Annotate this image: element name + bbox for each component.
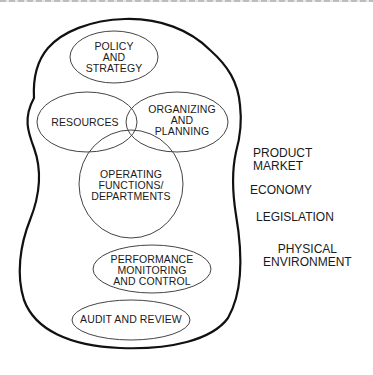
audit-label: AUDIT AND REVIEW <box>76 314 186 325</box>
external-legislation: LEGISLATION <box>256 211 334 224</box>
policy-label: POLICY AND STRATEGY <box>74 41 154 74</box>
diagram-canvas <box>0 0 373 375</box>
external-physical-environment: PHYSICAL ENVIRONMENT <box>263 243 352 268</box>
external-economy: ECONOMY <box>250 184 312 197</box>
operating-label: OPERATING FUNCTIONS/ DEPARTMENTS <box>81 169 181 202</box>
external-product-market: PRODUCT MARKET <box>253 147 312 172</box>
organizing-label: ORGANIZING AND PLANNING <box>137 104 227 137</box>
performance-label: PERFORMANCE MONITORING AND CONTROL <box>102 254 202 287</box>
resources-label: RESOURCES <box>40 117 130 128</box>
